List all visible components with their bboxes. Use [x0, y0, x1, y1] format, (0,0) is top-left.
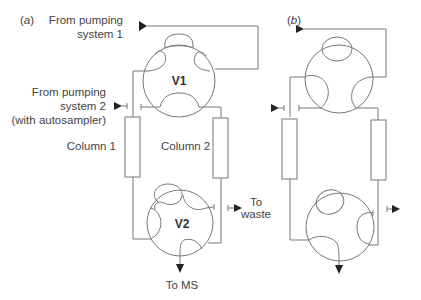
column2-b [371, 120, 386, 180]
column1-b [282, 119, 297, 179]
column1-label: Column 1 [67, 140, 116, 152]
valve-v1-loop-bottom [160, 93, 199, 107]
inlet1-tubing [147, 26, 258, 69]
panel-b: (b) [271, 14, 400, 274]
valve-v2-b [306, 186, 374, 261]
inlet1-tubing-b [304, 29, 386, 77]
valve-v2-loop-left [151, 208, 161, 238]
valve-v2-loop-bottom [180, 239, 202, 256]
valve-v2-loop-top [154, 184, 182, 210]
diagram-canvas: (a) From pumping system 1 V1 From pumpin… [0, 0, 421, 300]
column2-label: Column 2 [161, 140, 210, 152]
waste-outlet-arrow-icon-b [392, 205, 400, 213]
column2 [213, 118, 228, 178]
inlet2-arrow-icon [114, 102, 122, 110]
valve-v2: V2 [147, 184, 214, 256]
ms-outlet-arrow-icon-b [335, 265, 343, 274]
v1b-to-column2-tubing [357, 108, 378, 120]
valve-v1-b-loop-left [306, 76, 328, 109]
v1b-to-column1-tubing [290, 77, 306, 117]
waste-label-line2: waste [240, 208, 271, 220]
valve-v1-label: V1 [172, 74, 187, 88]
column1-to-v2-tubing [133, 177, 152, 239]
inlet2-label-line2: system 2 [60, 100, 106, 112]
valve-v2-b-loop-right [357, 213, 373, 244]
valve-v1: V1 [143, 34, 215, 117]
ms-outlet-arrow-icon [176, 264, 184, 273]
valve-v2-loop-right [183, 195, 214, 210]
panel-b-label: (b) [287, 14, 301, 26]
valve-v1-loop-left [148, 51, 166, 71]
valve-v1-b-loop-top [322, 37, 352, 61]
panel-a-label: (a) [20, 14, 34, 26]
ms-outlet-label: To MS [166, 279, 199, 291]
panel-a: (a) From pumping system 1 V1 From pumpin… [11, 14, 271, 291]
waste-label-line1: To [250, 196, 262, 208]
inlet1-arrow-icon-b [296, 25, 304, 33]
inlet2-label-line3: (with autosampler) [11, 114, 106, 126]
column2-to-v2-tubing [208, 178, 221, 243]
valve-v2-b-loop-top [313, 186, 348, 218]
inlet2-arrow-icon-b [271, 104, 279, 112]
inlet1-label-line2: system 1 [77, 28, 123, 40]
inlet1-arrow-icon [139, 21, 147, 31]
column1 [125, 117, 140, 177]
inlet1-label-line1: From pumping [49, 14, 123, 26]
inlet2-label-line1: From pumping [32, 86, 106, 98]
valve-v1-loop-right [194, 52, 210, 71]
valve-v2-label: V2 [175, 217, 190, 231]
valve-v1-b [305, 37, 373, 113]
